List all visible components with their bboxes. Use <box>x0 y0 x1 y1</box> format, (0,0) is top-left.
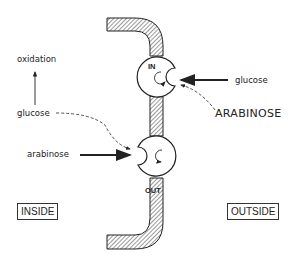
membrane <box>107 18 163 249</box>
carrier-out-label: OUT <box>145 186 161 195</box>
outside-box: OUTSIDE <box>227 203 279 220</box>
inside-box: INSIDE <box>17 203 58 220</box>
carrier-in-label: IN <box>148 62 156 71</box>
label-arabinose-outside: ARABINOSE <box>215 107 282 120</box>
label-glucose-inside: glucose <box>17 108 50 118</box>
label-oxidation: oxidation <box>17 54 56 64</box>
arrow-arabinose-to-in <box>181 85 215 110</box>
carrier-in <box>137 57 175 97</box>
arrow-glucose-to-out <box>56 113 130 149</box>
carrier-out <box>138 136 176 176</box>
label-glucose-outside: glucose <box>235 75 268 85</box>
label-arabinose-inside: arabinose <box>27 149 69 159</box>
